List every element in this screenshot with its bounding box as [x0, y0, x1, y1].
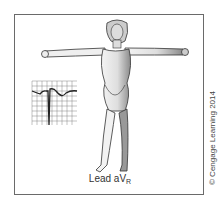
caption-subscript: R: [126, 178, 131, 185]
lead-caption: Lead aVR: [15, 173, 205, 185]
caption-text: Lead aV: [89, 173, 126, 184]
figure-illustration: [15, 15, 205, 196]
ecg-strip: [32, 81, 77, 125]
diagram-frame: Lead aVR: [14, 14, 204, 195]
copyright-credit: © Cengage Learning 2014: [208, 91, 217, 185]
